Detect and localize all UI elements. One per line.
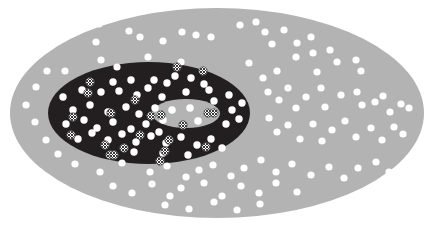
plain-dot-marker xyxy=(328,126,335,133)
plain-dot-marker xyxy=(151,104,158,111)
plain-dot-marker xyxy=(122,103,129,110)
hatched-dot-marker xyxy=(107,109,115,117)
plain-dot-marker xyxy=(97,88,104,95)
plain-dot-marker xyxy=(218,144,225,151)
plain-dot-marker xyxy=(235,115,242,122)
hatched-dot-marker xyxy=(210,109,218,117)
plain-dot-marker xyxy=(161,201,168,208)
hatched-dot-marker xyxy=(156,157,164,165)
plain-dot-marker xyxy=(135,110,142,117)
plain-dot-marker xyxy=(118,130,125,137)
plain-dot-marker xyxy=(390,123,397,130)
plain-dot-marker xyxy=(325,163,332,170)
plain-dot-marker xyxy=(132,138,139,145)
plain-dot-marker xyxy=(205,86,212,93)
plain-dot-marker xyxy=(118,159,125,166)
plain-dot-marker xyxy=(74,135,81,142)
plain-dot-marker xyxy=(207,135,214,142)
plain-dot-marker xyxy=(186,104,194,112)
plain-dot-marker xyxy=(168,106,176,114)
plain-dot-marker xyxy=(321,103,328,110)
hatched-dot-marker xyxy=(179,121,187,129)
plain-dot-marker xyxy=(293,188,300,195)
plain-dot-marker xyxy=(352,133,359,140)
plain-dot-marker xyxy=(309,120,316,127)
plain-dot-marker xyxy=(296,135,303,142)
plain-dot-marker xyxy=(61,67,68,74)
plain-dot-marker xyxy=(237,182,244,189)
plain-dot-marker xyxy=(307,33,314,40)
plain-dot-marker xyxy=(238,99,245,106)
plain-dot-marker xyxy=(272,168,279,175)
plain-dot-marker xyxy=(284,121,291,128)
hatched-dot-marker xyxy=(84,89,92,97)
plain-dot-marker xyxy=(233,206,240,213)
plain-dot-marker xyxy=(272,179,279,186)
plain-dot-marker xyxy=(125,27,132,34)
plain-dot-marker xyxy=(185,205,192,212)
plain-dot-marker xyxy=(178,28,185,35)
plain-dot-marker xyxy=(340,174,347,181)
plain-dot-marker xyxy=(307,171,314,178)
plain-dot-marker xyxy=(273,67,280,74)
plain-dot-marker xyxy=(357,67,364,74)
hatched-dot-marker xyxy=(202,143,210,151)
plain-dot-marker xyxy=(379,92,386,99)
plain-dot-marker xyxy=(142,120,149,127)
plain-dot-marker xyxy=(177,184,184,191)
plain-dot-marker xyxy=(159,37,166,44)
hatched-dot-marker xyxy=(157,111,165,119)
plain-dot-marker xyxy=(187,74,194,81)
plain-dot-marker xyxy=(209,161,216,168)
plain-dot-marker xyxy=(252,18,259,25)
plain-dot-marker xyxy=(405,104,412,111)
plain-dot-marker xyxy=(367,124,374,131)
plain-dot-marker xyxy=(378,136,385,143)
plain-dot-marker xyxy=(193,141,200,148)
plain-dot-marker xyxy=(261,28,268,35)
plain-dot-marker xyxy=(109,78,116,85)
plain-dot-marker xyxy=(317,84,324,91)
plain-dot-marker xyxy=(155,128,162,135)
plain-dot-marker xyxy=(97,56,104,63)
plain-dot-marker xyxy=(225,91,232,98)
plain-dot-marker xyxy=(146,168,153,175)
hatched-dot-marker xyxy=(101,141,109,149)
plain-dot-marker xyxy=(302,93,309,100)
plain-dot-marker xyxy=(109,182,116,189)
plain-dot-marker xyxy=(163,162,170,169)
hatched-dot-marker xyxy=(67,131,75,139)
plain-dot-marker xyxy=(128,189,135,196)
plain-dot-marker xyxy=(96,168,103,175)
plain-dot-marker xyxy=(200,179,207,186)
hatched-dot-marker xyxy=(131,96,139,104)
plain-dot-marker xyxy=(148,180,155,187)
plain-dot-marker xyxy=(222,120,229,127)
plain-dot-marker xyxy=(255,189,262,196)
plain-dot-marker xyxy=(22,101,29,108)
plain-dot-marker xyxy=(333,58,340,65)
plain-dot-marker xyxy=(166,192,173,199)
plain-dot-marker xyxy=(372,158,379,165)
plain-dot-marker xyxy=(127,125,134,132)
plain-dot-marker xyxy=(292,104,299,111)
plain-dot-marker xyxy=(341,117,348,124)
plain-dot-marker xyxy=(353,88,360,95)
plain-dot-marker xyxy=(32,83,39,90)
plain-dot-marker xyxy=(352,56,359,63)
plain-dot-marker xyxy=(218,192,225,199)
plain-dot-marker xyxy=(358,101,365,108)
plain-dot-marker xyxy=(318,137,325,144)
plain-dot-marker xyxy=(144,53,151,60)
plain-dot-marker xyxy=(192,31,199,38)
plain-dot-marker xyxy=(31,118,38,125)
plain-dot-marker xyxy=(163,79,170,86)
plain-dot-marker xyxy=(280,26,287,33)
plain-dot-marker xyxy=(275,96,282,103)
plain-dot-marker xyxy=(147,132,154,139)
plain-dot-marker xyxy=(194,117,202,125)
plain-dot-marker xyxy=(309,49,316,56)
plain-dot-marker xyxy=(284,84,291,91)
plain-dot-marker xyxy=(59,93,66,100)
plain-dot-marker xyxy=(109,118,116,125)
